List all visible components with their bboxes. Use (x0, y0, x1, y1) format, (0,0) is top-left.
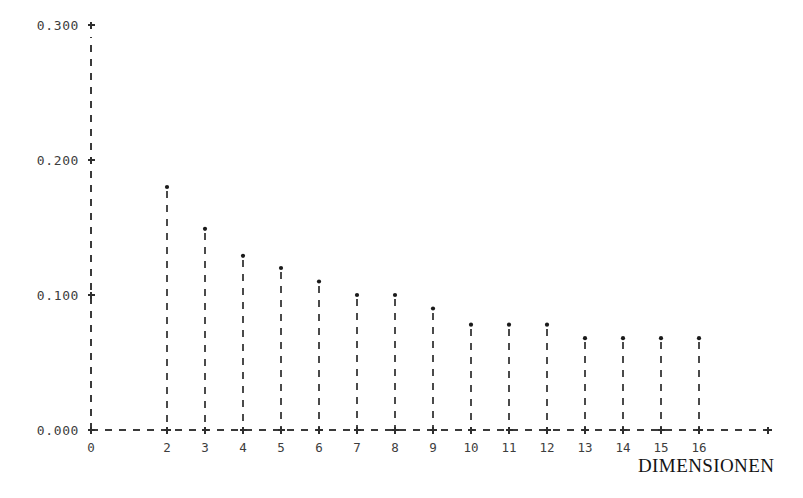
data-point (507, 323, 511, 327)
data-point (165, 185, 169, 189)
data-point (431, 306, 435, 310)
x-axis-tick-marker (202, 427, 209, 434)
y-axis-tick-label: 0.000 (37, 423, 79, 438)
x-axis-tick-marker (582, 427, 589, 434)
x-axis-tick-label: 11 (501, 440, 516, 455)
y-axis-tick-marker (88, 292, 95, 299)
plot-area (0, 0, 803, 498)
axis-group (91, 37, 768, 430)
y-axis-tick-marker (88, 22, 95, 29)
data-point (469, 323, 473, 327)
data-point (317, 279, 321, 283)
x-axis-tick-label: 12 (539, 440, 554, 455)
x-axis-tick-marker (392, 427, 399, 434)
data-point (355, 293, 359, 297)
x-axis-tick-label: 2 (163, 440, 171, 455)
x-axis-tick-label: 15 (653, 440, 668, 455)
data-point (583, 336, 587, 340)
data-point (545, 323, 549, 327)
x-axis-tick-marker (316, 427, 323, 434)
x-axis-tick-label: 10 (463, 440, 478, 455)
x-axis-tick-label: 8 (391, 440, 399, 455)
x-axis-tick-marker (354, 427, 361, 434)
x-axis-tick-marker (658, 427, 665, 434)
y-axis-tick-label: 0.200 (37, 153, 79, 168)
x-axis-tick-label: 5 (277, 440, 285, 455)
data-point (659, 336, 663, 340)
y-axis-tick-label: 0.100 (37, 288, 79, 303)
data-point (393, 293, 397, 297)
x-axis-tick-marker (544, 427, 551, 434)
x-axis-tick-label: 16 (691, 440, 706, 455)
x-axis-tick-label: 0 (87, 440, 95, 455)
y-axis-tick-marker (88, 157, 95, 164)
x-axis-tick-marker (164, 427, 171, 434)
x-axis-tick-label: 7 (353, 440, 361, 455)
x-axis-end-marker (765, 427, 772, 434)
data-point (621, 336, 625, 340)
x-axis-tick-marker (430, 427, 437, 434)
x-axis-tick-label: 13 (577, 440, 592, 455)
x-axis-title: DIMENSIONEN (638, 455, 774, 477)
tick-marker-group (88, 22, 772, 434)
x-axis-tick-marker (278, 427, 285, 434)
data-point (279, 266, 283, 270)
x-axis-tick-marker (88, 427, 95, 434)
data-point (697, 336, 701, 340)
x-axis-tick-label: 4 (239, 440, 247, 455)
x-axis-tick-marker (696, 427, 703, 434)
x-axis-tick-marker (506, 427, 513, 434)
y-axis-tick-label: 0.300 (37, 18, 79, 33)
x-axis-tick-label: 14 (615, 440, 630, 455)
x-axis-tick-marker (240, 427, 247, 434)
chart-container: 0.0000.1000.2000.300 0234567891011121314… (0, 0, 803, 498)
data-point (203, 227, 207, 231)
x-axis-tick-marker (468, 427, 475, 434)
x-axis-tick-label: 6 (315, 440, 323, 455)
x-axis-tick-label: 3 (201, 440, 209, 455)
data-point (241, 254, 245, 258)
x-axis-tick-marker (620, 427, 627, 434)
x-axis-tick-label: 9 (429, 440, 437, 455)
